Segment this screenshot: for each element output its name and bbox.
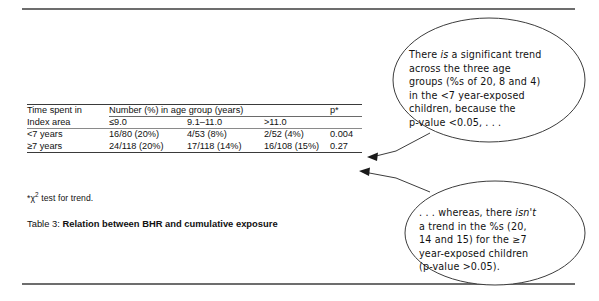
data-table: Time spent in Number (%) in age group (y…: [27, 104, 362, 153]
bubble-1-line-2: across the three age: [409, 62, 561, 76]
caption-number: Table 3:: [27, 218, 62, 229]
bubble-2-line-4: year-exposed children: [419, 247, 565, 261]
subheader-age-2: 9.1–11.0: [187, 117, 264, 129]
bubble-2-line-5: (p-value >0.05).: [419, 260, 565, 274]
subheader-age-3: >11.0: [264, 117, 330, 129]
row-label-ge7: ≥7 years: [27, 141, 109, 153]
p-header: p*: [330, 105, 362, 117]
bubble-1-line-3: groups (%s of 20, 8 and 4): [409, 75, 561, 89]
subheader-p-spacer: [330, 117, 362, 129]
footnote-text: test for trend.: [39, 193, 94, 203]
page-rule-bottom: [22, 283, 575, 285]
table-header-row-main: Time spent in Number (%) in age group (y…: [27, 105, 362, 117]
table-caption: Table 3: Relation between BHR and cumula…: [27, 218, 278, 229]
bubble-2-line-1: . . . whereas, there isn't: [419, 206, 565, 220]
cell-ge7-pvalue: 0.27: [330, 141, 362, 153]
figure-page: Time spent in Number (%) in age group (y…: [0, 0, 599, 301]
bubble-1-line-4: in the <7 year-exposed: [409, 89, 561, 103]
cell-ge7-age2: 17/118 (14%): [187, 141, 264, 153]
page-rule-top: [22, 8, 575, 10]
cell-ge7-age1: 24/118 (20%): [109, 141, 187, 153]
table-row: <7 years 16/80 (20%) 4/53 (8%) 2/52 (4%)…: [27, 129, 362, 141]
table-header-row-sub: Index area ≤9.0 9.1–11.0 >11.0: [27, 117, 362, 129]
bubble-2-line-3: 14 and 15) for the ≥7: [419, 233, 565, 247]
cell-lt7-age1: 16/80 (20%): [109, 129, 187, 141]
group-header: Number (%) in age group (years): [109, 105, 330, 117]
cell-lt7-age3: 2/52 (4%): [264, 129, 330, 141]
annotation-arrowhead-2: [359, 168, 370, 177]
cell-lt7-age2: 4/53 (8%): [187, 129, 264, 141]
stub-header-line1: Time spent in: [27, 105, 109, 117]
bubble-1-line-5: children, because the: [409, 102, 561, 116]
table-footnote: *χ2 test for trend.: [27, 191, 93, 203]
stub-header-line2: Index area: [27, 117, 109, 129]
table-bottom-rule: [27, 152, 362, 153]
subheader-age-1: ≤9.0: [109, 117, 187, 129]
annotation-arrowhead-1: [367, 153, 378, 162]
bubble-2-line-2: a trend in the %s (20,: [419, 220, 565, 234]
cell-ge7-age3: 16/108 (15%): [264, 141, 330, 153]
table-row: ≥7 years 24/118 (20%) 17/118 (14%) 16/10…: [27, 141, 362, 153]
row-label-lt7: <7 years: [27, 129, 109, 141]
annotation-pointer-2: [364, 172, 430, 192]
cell-lt7-pvalue: 0.004: [330, 129, 362, 141]
table-3: Time spent in Number (%) in age group (y…: [27, 104, 362, 153]
bubble-1-line-6: p-value <0.05, . . .: [409, 116, 561, 130]
bubble-1-line-1: There is a significant trend: [409, 48, 561, 62]
annotation-bubble-1-text: There is a significant trend across the …: [409, 48, 561, 130]
caption-text: Relation between BHR and cumulative expo…: [62, 218, 277, 229]
annotation-pointer-1: [372, 133, 430, 157]
annotation-bubble-2-text: . . . whereas, there isn't a trend in th…: [419, 206, 565, 274]
